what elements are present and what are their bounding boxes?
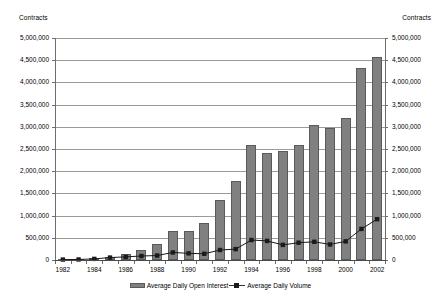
x-tick-mark — [259, 261, 260, 264]
bar — [309, 125, 319, 260]
x-axis-tick-label: 1994 — [237, 266, 265, 273]
left-axis-line — [55, 38, 56, 261]
right-axis-tick-label: 1,000,000 — [392, 212, 421, 219]
right-axis-tick-label: 3,000,000 — [392, 123, 421, 130]
bar — [215, 200, 225, 260]
legend-bar-swatch-icon — [130, 283, 145, 288]
right-axis-tick-label: 4,500,000 — [392, 56, 421, 63]
x-tick-mark — [165, 261, 166, 264]
right-axis-tick-label: 3,500,000 — [392, 101, 421, 108]
gridline — [55, 193, 385, 194]
x-tick-mark — [86, 261, 87, 264]
left-axis-tick-label: 3,500,000 — [20, 101, 49, 108]
left-axis-tick-label: 3,000,000 — [20, 123, 49, 130]
x-tick-mark — [385, 261, 386, 264]
gridline — [55, 171, 385, 172]
x-tick-mark — [354, 261, 355, 264]
left-axis-tick-label: 4,500,000 — [20, 56, 49, 63]
x-axis-tick-label: 1988 — [143, 266, 171, 273]
left-axis-tick-label: 2,000,000 — [20, 167, 49, 174]
bar — [325, 128, 335, 260]
right-axis-tick-label: 4,000,000 — [392, 78, 421, 85]
x-tick-mark — [134, 261, 135, 264]
x-tick-mark — [149, 261, 150, 264]
right-axis-line — [385, 38, 386, 261]
gridline — [55, 127, 385, 128]
left-axis-tick-label: 4,000,000 — [20, 78, 49, 85]
x-tick-mark — [228, 261, 229, 264]
legend-label-daily-volume: Average Daily Volume — [247, 282, 311, 289]
bar — [168, 231, 178, 260]
gridline — [55, 82, 385, 83]
x-tick-mark — [275, 261, 276, 264]
x-tick-mark — [71, 261, 72, 264]
gridline — [55, 60, 385, 61]
x-tick-mark — [181, 261, 182, 264]
x-tick-mark — [338, 261, 339, 264]
x-axis-tick-label: 1992 — [206, 266, 234, 273]
bar — [136, 250, 146, 260]
left-axis-tick-label: 0 — [45, 256, 49, 263]
legend-entry-open-interest: Average Daily Open Interest — [130, 281, 229, 289]
x-axis-tick-label: 1990 — [175, 266, 203, 273]
bar — [341, 118, 351, 260]
x-tick-mark — [322, 261, 323, 264]
x-axis-tick-label: 2000 — [332, 266, 360, 273]
gridline — [55, 149, 385, 150]
bar — [246, 145, 256, 260]
x-axis-tick-label: 2002 — [363, 266, 391, 273]
left-axis-tick-label: 500,000 — [26, 234, 50, 241]
bar — [152, 244, 162, 260]
bar — [278, 151, 288, 260]
x-tick-mark — [212, 261, 213, 264]
right-axis-tick-label: 0 — [392, 256, 396, 263]
left-axis-caption: Contracts — [19, 14, 48, 21]
x-axis-tick-label: 1998 — [300, 266, 328, 273]
legend-entry-daily-volume: Average Daily Volume — [228, 281, 311, 289]
x-tick-mark — [196, 261, 197, 264]
x-axis-tick-label: 1986 — [112, 266, 140, 273]
right-axis-tick-label: 2,500,000 — [392, 145, 421, 152]
bar — [356, 68, 366, 260]
bar — [294, 145, 304, 260]
gridline — [55, 105, 385, 106]
x-tick-mark — [55, 261, 56, 264]
x-axis-tick-label: 1984 — [80, 266, 108, 273]
x-tick-mark — [291, 261, 292, 264]
x-tick-mark — [118, 261, 119, 264]
x-tick-mark — [369, 261, 370, 264]
right-axis-tick-label: 1,500,000 — [392, 189, 421, 196]
left-axis-tick-label: 5,000,000 — [20, 34, 49, 41]
left-axis-tick-label: 1,000,000 — [20, 212, 49, 219]
gridline — [55, 38, 385, 39]
bar — [262, 153, 272, 260]
chart-legend: Average Daily Open Interest Average Dail… — [0, 281, 441, 289]
legend-line-swatch-icon — [229, 282, 245, 289]
right-axis-tick-label: 2,000,000 — [392, 167, 421, 174]
left-axis-tick-label: 2,500,000 — [20, 145, 49, 152]
bar — [199, 223, 209, 260]
x-tick-mark — [244, 261, 245, 264]
x-tick-mark — [306, 261, 307, 264]
x-axis-line — [55, 260, 386, 261]
left-axis-tick-label: 1,500,000 — [20, 189, 49, 196]
bar — [231, 181, 241, 260]
x-axis-tick-label: 1982 — [49, 266, 77, 273]
bar — [184, 231, 194, 260]
x-axis-tick-label: 1996 — [269, 266, 297, 273]
right-axis-caption: Contracts — [402, 14, 431, 21]
right-axis-tick-label: 5,000,000 — [392, 34, 421, 41]
bar — [372, 57, 382, 260]
legend-label-open-interest: Average Daily Open Interest — [147, 282, 229, 289]
right-axis-tick-label: 500,000 — [392, 234, 416, 241]
chart-container: Contracts Contracts 0500,0001,000,0001,5… — [0, 0, 441, 300]
x-tick-mark — [102, 261, 103, 264]
